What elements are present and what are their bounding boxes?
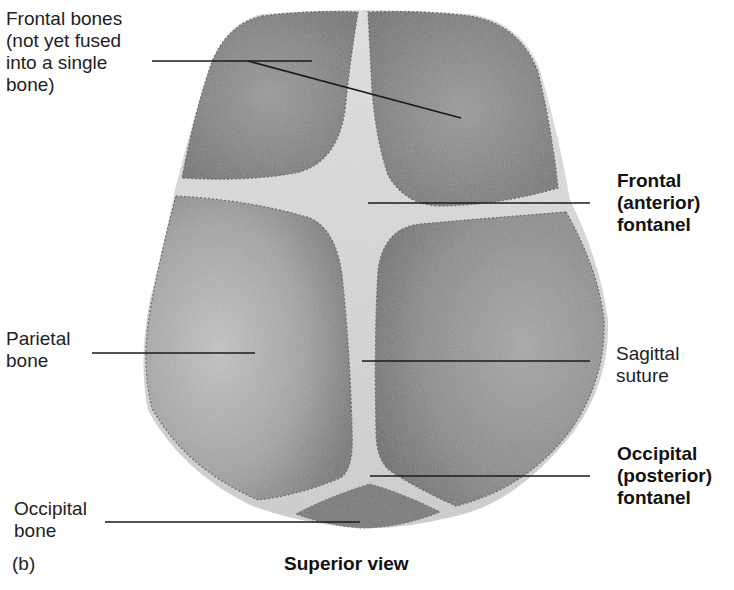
left-parietal-bone — [146, 196, 352, 500]
fetal-skull-diagram: Frontal bones (not yet fused into a sing… — [0, 0, 734, 590]
label-frontal-fontanel: Frontal (anterior) fontanel — [617, 170, 700, 236]
label-occipital-bone: Occipital bone — [14, 498, 87, 542]
label-parietal-bone: Parietal bone — [6, 328, 70, 372]
right-parietal-bone — [375, 212, 604, 506]
panel-letter: (b) — [12, 553, 35, 575]
figure-caption: Superior view — [284, 553, 409, 575]
label-occipital-fontanel: Occipital (posterior) fontanel — [617, 443, 712, 509]
right-frontal-bone — [368, 12, 558, 207]
label-frontal-bones: Frontal bones (not yet fused into a sing… — [6, 8, 122, 96]
label-sagittal-suture: Sagittal suture — [616, 343, 679, 387]
